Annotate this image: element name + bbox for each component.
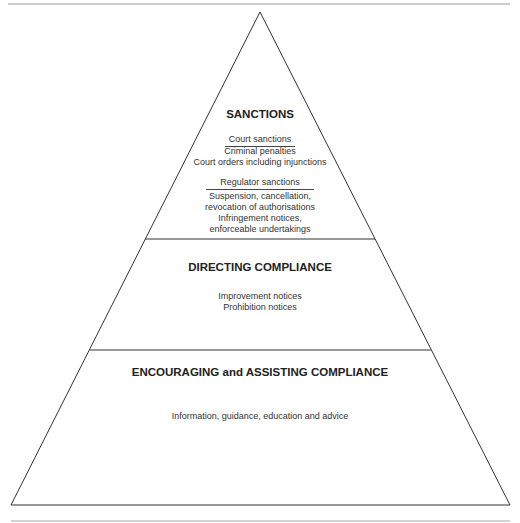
regulator-sanctions-item: Suspension, cancellation, (0, 191, 520, 202)
tier-directing-heading: DIRECTING COMPLIANCE (0, 261, 520, 273)
tier-encouraging-heading: ENCOURAGING and ASSISTING COMPLIANCE (0, 366, 520, 378)
tier-sanctions-heading: SANCTIONS (0, 108, 520, 120)
regulator-sanctions-item: enforceable undertakings (0, 224, 520, 235)
court-sanctions-item: Criminal penalties (0, 146, 520, 157)
pyramid-outline (11, 12, 510, 505)
regulator-sanctions-title: Regulator sanctions (206, 177, 314, 190)
court-sanctions-item: Court orders including injunctions (0, 157, 520, 168)
directing-item: Improvement notices (0, 291, 520, 302)
regulator-sanctions-item: Infringement notices, (0, 213, 520, 224)
directing-item: Prohibition notices (0, 302, 520, 313)
encouraging-item: Information, guidance, education and adv… (0, 411, 520, 422)
regulator-sanctions-item: revocation of authorisations (0, 202, 520, 213)
